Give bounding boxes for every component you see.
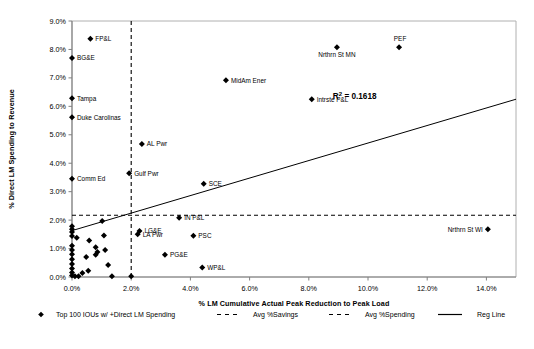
data-point-label: WP&L <box>207 264 226 271</box>
legend-item-avg-spending[interactable]: Avg %Spending <box>329 311 415 319</box>
data-point-label: SCE <box>209 180 222 187</box>
data-point-label: Comm Ed <box>77 175 106 182</box>
data-point-label: PEF <box>394 35 407 42</box>
data-point-marker <box>139 141 145 147</box>
data-point-marker <box>69 114 75 120</box>
x-tick-label: 8.0% <box>301 284 318 293</box>
x-tick-label: 0.0% <box>64 284 81 293</box>
data-point-marker <box>101 232 107 238</box>
data-point-marker <box>223 77 229 83</box>
data-point-marker <box>485 226 491 232</box>
data-point-label: Nrthrn St WI <box>448 226 483 233</box>
data-point-marker <box>87 36 93 42</box>
data-point-marker <box>190 233 196 239</box>
data-point-label: MidAm Ener <box>231 77 267 84</box>
x-tick-label: 6.0% <box>241 284 258 293</box>
data-point-marker <box>69 176 75 182</box>
y-axis-title: % Direct LM Spending to Revenue <box>7 89 16 209</box>
y-tick-label: 7.0% <box>50 73 67 82</box>
data-point-marker <box>396 44 402 50</box>
y-tick-label: 3.0% <box>50 187 67 196</box>
data-point-label: Tampa <box>77 95 97 103</box>
data-point-label: AL Pwr <box>147 140 168 147</box>
x-axis-ticks: 0.0%2.0%4.0%6.0%8.0%10.0%12.0%14.0% <box>64 277 497 293</box>
data-point-label: PSC <box>198 232 212 239</box>
data-point-marker <box>85 268 91 274</box>
data-point-marker <box>69 95 75 101</box>
y-tick-label: 1.0% <box>50 244 67 253</box>
y-tick-label: 4.0% <box>50 159 67 168</box>
x-tick-label: 4.0% <box>182 284 199 293</box>
data-point-marker <box>83 254 89 260</box>
data-point-marker <box>109 273 115 279</box>
data-point-marker <box>102 247 108 253</box>
legend-item-avg-savings[interactable]: Avg %Savings <box>217 311 299 319</box>
plot-area-border <box>72 21 516 277</box>
y-tick-label: 0.0% <box>50 273 67 282</box>
reference-lines <box>72 21 516 277</box>
y-tick-label: 5.0% <box>50 130 67 139</box>
regression-line <box>72 99 516 230</box>
chart-canvas: 0.0%1.0%2.0%3.0%4.0%5.0%6.0%7.0%8.0%9.0%… <box>0 0 534 349</box>
data-point-marker <box>201 181 207 187</box>
data-point-label: FP&L <box>95 35 111 42</box>
data-point-marker <box>128 273 134 279</box>
x-tick-label: 10.0% <box>358 284 379 293</box>
legend-item-reg-line[interactable]: Reg Line <box>438 311 505 319</box>
x-tick-label: 12.0% <box>417 284 438 293</box>
data-point-label: Duke Carolinas <box>77 114 121 121</box>
data-point-marker <box>93 244 99 250</box>
legend-item-label: Top 100 IOUs w/ +Direct LM Spending <box>56 311 175 319</box>
data-point-marker <box>99 218 105 224</box>
data-point-label: Gulf Pwr <box>134 170 159 177</box>
data-point-marker <box>162 252 168 258</box>
data-point-label: Nrthrn St MN <box>318 51 356 58</box>
legend-item-iou-points[interactable]: Top 100 IOUs w/ +Direct LM Spending <box>38 311 175 319</box>
data-point-marker <box>199 265 205 271</box>
data-point-marker <box>69 251 75 257</box>
legend-item-label: Avg %Savings <box>253 311 299 319</box>
data-points-group <box>69 36 491 280</box>
data-point-marker <box>74 235 80 241</box>
data-point-marker <box>86 238 92 244</box>
plot-border-path <box>72 21 516 277</box>
y-tick-label: 9.0% <box>50 17 67 26</box>
data-point-label: IN P&L <box>184 214 205 221</box>
x-axis-title: % LM Cumulative Actual Peak Reduction to… <box>199 299 390 308</box>
data-point-marker <box>105 262 111 268</box>
data-point-label: BG&E <box>77 54 95 61</box>
legend-diamond-marker <box>38 312 44 318</box>
axes <box>72 21 516 277</box>
legend-item-label: Avg %Spending <box>365 311 415 319</box>
legend-item-label: Reg Line <box>477 311 505 319</box>
data-point-label: LA Pwr <box>143 231 164 238</box>
y-tick-label: 8.0% <box>50 45 67 54</box>
data-point-label: PG&E <box>170 251 188 258</box>
y-tick-label: 6.0% <box>50 102 67 111</box>
data-point-marker <box>309 96 315 102</box>
y-axis-ticks: 0.0%1.0%2.0%3.0%4.0%5.0%6.0%7.0%8.0%9.0% <box>50 17 72 282</box>
y-tick-label: 2.0% <box>50 216 67 225</box>
data-point-marker <box>69 55 75 61</box>
data-point-marker <box>69 233 75 239</box>
scatter-plot-chart: 0.0%1.0%2.0%3.0%4.0%5.0%6.0%7.0%8.0%9.0%… <box>0 0 534 349</box>
x-tick-label: 2.0% <box>123 284 140 293</box>
chart-legend: Top 100 IOUs w/ +Direct LM SpendingAvg %… <box>38 311 505 319</box>
data-point-marker <box>334 44 340 50</box>
x-tick-label: 14.0% <box>476 284 497 293</box>
